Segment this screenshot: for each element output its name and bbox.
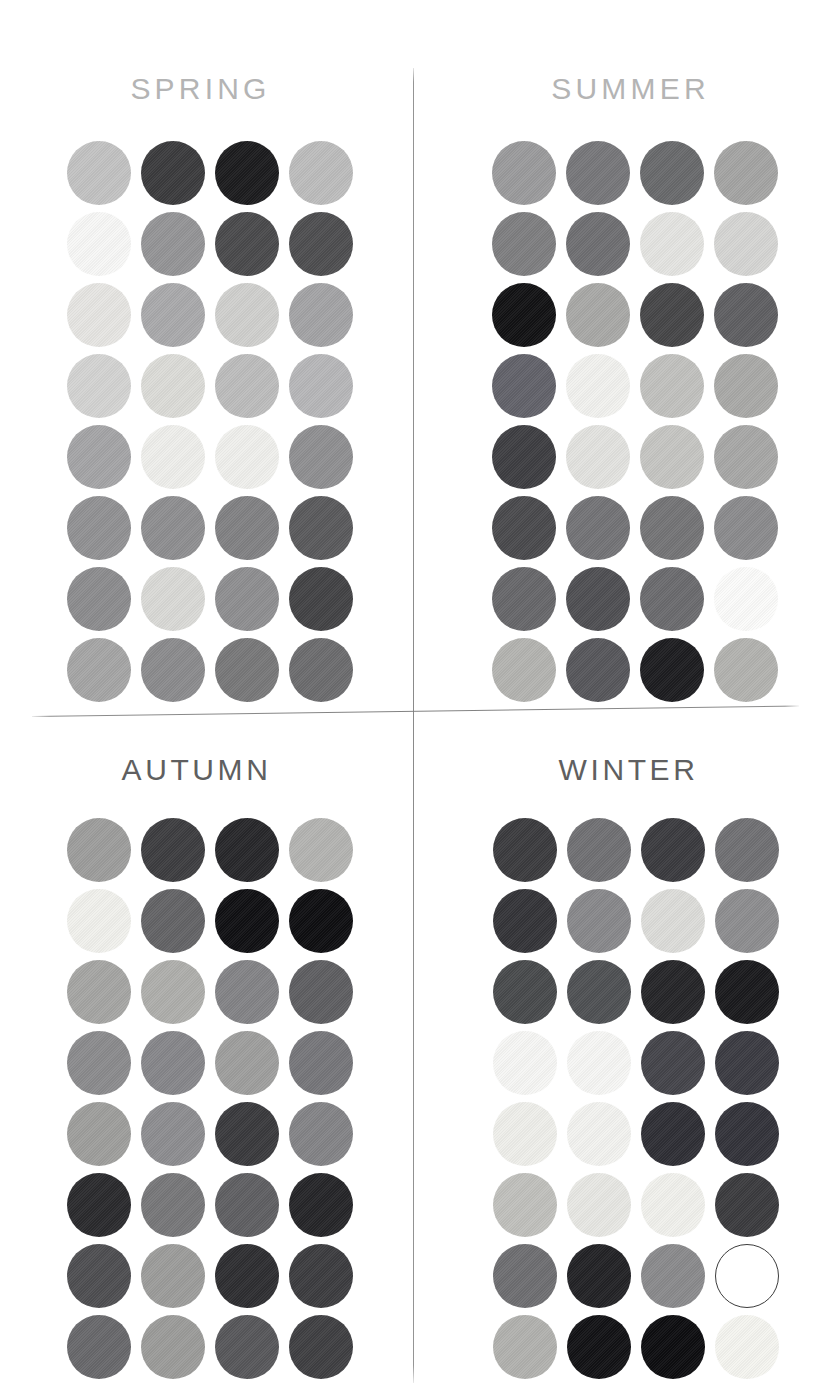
swatch-winter-r3c4[interactable] [715, 960, 779, 1024]
swatch-autumn-r8c2[interactable] [141, 1315, 205, 1379]
swatch-spring-r8c1[interactable] [67, 638, 131, 702]
swatch-spring-r3c3[interactable] [215, 283, 279, 347]
swatch-summer-r7c3[interactable] [640, 567, 704, 631]
swatch-summer-r1c3[interactable] [640, 141, 704, 205]
swatch-spring-r5c2[interactable] [141, 425, 205, 489]
swatch-autumn-r8c3[interactable] [215, 1315, 279, 1379]
swatch-autumn-r4c3[interactable] [215, 1031, 279, 1095]
swatch-autumn-r8c4[interactable] [289, 1315, 353, 1379]
swatch-summer-r5c1[interactable] [492, 425, 556, 489]
swatch-summer-r7c2[interactable] [566, 567, 630, 631]
swatch-winter-r7c2[interactable] [567, 1244, 631, 1308]
swatch-winter-r8c2[interactable] [567, 1315, 631, 1379]
swatch-winter-r5c1[interactable] [493, 1102, 557, 1166]
swatch-autumn-r6c1[interactable] [67, 1173, 131, 1237]
swatch-spring-r5c3[interactable] [215, 425, 279, 489]
swatch-summer-r5c2[interactable] [566, 425, 630, 489]
swatch-autumn-r5c1[interactable] [67, 1102, 131, 1166]
swatch-summer-r6c2[interactable] [566, 496, 630, 560]
swatch-autumn-r7c1[interactable] [67, 1244, 131, 1308]
swatch-spring-r1c2[interactable] [141, 141, 205, 205]
swatch-winter-r2c3[interactable] [641, 889, 705, 953]
swatch-summer-r8c4[interactable] [714, 638, 778, 702]
swatch-autumn-r4c2[interactable] [141, 1031, 205, 1095]
swatch-winter-r5c4[interactable] [715, 1102, 779, 1166]
swatch-spring-r5c1[interactable] [67, 425, 131, 489]
swatch-spring-r7c2[interactable] [141, 567, 205, 631]
swatch-summer-r8c2[interactable] [566, 638, 630, 702]
swatch-winter-r6c2[interactable] [567, 1173, 631, 1237]
swatch-winter-r6c1[interactable] [493, 1173, 557, 1237]
swatch-winter-r2c4[interactable] [715, 889, 779, 953]
swatch-spring-r4c2[interactable] [141, 354, 205, 418]
swatch-autumn-r7c3[interactable] [215, 1244, 279, 1308]
swatch-autumn-r5c3[interactable] [215, 1102, 279, 1166]
swatch-summer-r7c1[interactable] [492, 567, 556, 631]
swatch-autumn-r2c2[interactable] [141, 889, 205, 953]
swatch-winter-r3c1[interactable] [493, 960, 557, 1024]
swatch-autumn-r3c4[interactable] [289, 960, 353, 1024]
swatch-spring-r8c4[interactable] [289, 638, 353, 702]
swatch-autumn-r5c2[interactable] [141, 1102, 205, 1166]
swatch-winter-r7c4[interactable] [715, 1244, 779, 1308]
swatch-summer-r4c2[interactable] [566, 354, 630, 418]
swatch-autumn-r2c4[interactable] [289, 889, 353, 953]
swatch-spring-r7c1[interactable] [67, 567, 131, 631]
swatch-autumn-r6c4[interactable] [289, 1173, 353, 1237]
swatch-spring-r7c4[interactable] [289, 567, 353, 631]
swatch-autumn-r4c1[interactable] [67, 1031, 131, 1095]
swatch-summer-r5c3[interactable] [640, 425, 704, 489]
swatch-spring-r1c4[interactable] [289, 141, 353, 205]
swatch-spring-r3c2[interactable] [141, 283, 205, 347]
swatch-autumn-r2c3[interactable] [215, 889, 279, 953]
swatch-spring-r1c1[interactable] [67, 141, 131, 205]
swatch-summer-r3c2[interactable] [566, 283, 630, 347]
swatch-winter-r8c4[interactable] [715, 1315, 779, 1379]
swatch-autumn-r1c4[interactable] [289, 818, 353, 882]
swatch-autumn-r5c4[interactable] [289, 1102, 353, 1166]
swatch-winter-r1c1[interactable] [493, 818, 557, 882]
swatch-spring-r6c1[interactable] [67, 496, 131, 560]
swatch-winter-r1c4[interactable] [715, 818, 779, 882]
swatch-summer-r6c3[interactable] [640, 496, 704, 560]
swatch-spring-r4c3[interactable] [215, 354, 279, 418]
swatch-summer-r3c4[interactable] [714, 283, 778, 347]
swatch-autumn-r3c1[interactable] [67, 960, 131, 1024]
swatch-spring-r2c3[interactable] [215, 212, 279, 276]
swatch-summer-r6c4[interactable] [714, 496, 778, 560]
swatch-winter-r4c1[interactable] [493, 1031, 557, 1095]
swatch-spring-r3c1[interactable] [67, 283, 131, 347]
swatch-winter-r2c1[interactable] [493, 889, 557, 953]
swatch-autumn-r8c1[interactable] [67, 1315, 131, 1379]
swatch-autumn-r3c2[interactable] [141, 960, 205, 1024]
swatch-spring-r5c4[interactable] [289, 425, 353, 489]
swatch-autumn-r1c3[interactable] [215, 818, 279, 882]
swatch-winter-r3c2[interactable] [567, 960, 631, 1024]
swatch-summer-r6c1[interactable] [492, 496, 556, 560]
swatch-autumn-r6c3[interactable] [215, 1173, 279, 1237]
swatch-winter-r8c1[interactable] [493, 1315, 557, 1379]
swatch-spring-r8c2[interactable] [141, 638, 205, 702]
swatch-winter-r4c3[interactable] [641, 1031, 705, 1095]
swatch-summer-r7c4[interactable] [714, 567, 778, 631]
swatch-summer-r2c2[interactable] [566, 212, 630, 276]
swatch-spring-r4c4[interactable] [289, 354, 353, 418]
swatch-summer-r2c3[interactable] [640, 212, 704, 276]
swatch-spring-r2c2[interactable] [141, 212, 205, 276]
swatch-spring-r8c3[interactable] [215, 638, 279, 702]
swatch-winter-r8c3[interactable] [641, 1315, 705, 1379]
swatch-winter-r2c2[interactable] [567, 889, 631, 953]
swatch-spring-r3c4[interactable] [289, 283, 353, 347]
swatch-spring-r2c1[interactable] [67, 212, 131, 276]
swatch-winter-r4c4[interactable] [715, 1031, 779, 1095]
swatch-spring-r2c4[interactable] [289, 212, 353, 276]
swatch-winter-r5c3[interactable] [641, 1102, 705, 1166]
swatch-winter-r5c2[interactable] [567, 1102, 631, 1166]
swatch-summer-r1c1[interactable] [492, 141, 556, 205]
swatch-spring-r6c4[interactable] [289, 496, 353, 560]
swatch-summer-r1c4[interactable] [714, 141, 778, 205]
swatch-autumn-r2c1[interactable] [67, 889, 131, 953]
swatch-summer-r8c1[interactable] [492, 638, 556, 702]
swatch-winter-r1c2[interactable] [567, 818, 631, 882]
swatch-winter-r6c3[interactable] [641, 1173, 705, 1237]
